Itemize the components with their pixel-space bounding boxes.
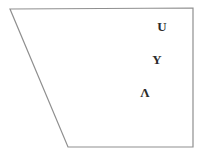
label-u: U: [157, 20, 166, 33]
label-y: Y: [152, 53, 161, 66]
diagram-canvas: U Y Λ: [0, 0, 203, 158]
label-lambda: Λ: [140, 86, 149, 99]
trapezoid-figure: [0, 0, 203, 158]
